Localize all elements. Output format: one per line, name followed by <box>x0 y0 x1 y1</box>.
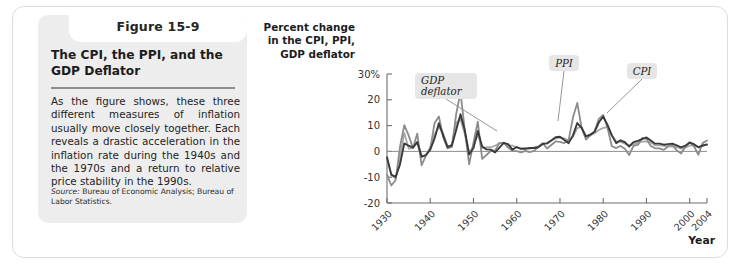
annotation-leader <box>558 71 564 121</box>
y-tick-label: 30% <box>358 69 380 80</box>
figure-container: Figure 15-9 The CPI, the PPI, and the GD… <box>12 6 728 258</box>
x-tick-label: 1980 <box>585 208 610 233</box>
x-tick-label: 1960 <box>499 208 524 233</box>
figure-body-text: As the figure shows, these three differe… <box>51 95 240 189</box>
x-tick-label: 1930 <box>369 208 394 233</box>
x-tick-label: 1970 <box>542 208 567 233</box>
figure-number: Figure 15-9 <box>69 19 247 34</box>
x-tick-label: 1940 <box>412 208 437 233</box>
annotation-label: deflator <box>421 86 463 97</box>
x-tick-label: 1990 <box>628 208 653 233</box>
figure-source: Source: Bureau of Economic Analysis; Bur… <box>51 187 240 206</box>
annotation-label: GDP <box>421 75 444 86</box>
caption-divider <box>51 87 235 89</box>
line-chart-plot: 30%20100-10-2019301940195019601970198019… <box>249 13 723 253</box>
chart-area: Percent change in the CPI, PPI, GDP defl… <box>249 13 723 253</box>
figure-title: The CPI, the PPI, and the GDP Deflator <box>51 48 237 79</box>
annotation-leader <box>607 79 642 113</box>
y-tick-label: -10 <box>364 172 380 183</box>
x-tick-label: 2004 <box>689 208 714 233</box>
x-tick-label: 1950 <box>456 208 481 233</box>
annotation-leader <box>446 99 497 131</box>
annotation-label: PPI <box>554 58 574 69</box>
y-tick-label: 0 <box>374 146 380 157</box>
caption-panel: Figure 15-9 The CPI, the PPI, and the GD… <box>38 15 247 223</box>
y-tick-label: 20 <box>367 94 380 105</box>
y-tick-label: 10 <box>367 120 380 131</box>
annotation-label: CPI <box>633 66 653 77</box>
source-label: Source: <box>51 187 80 196</box>
y-tick-label: -20 <box>364 198 380 209</box>
